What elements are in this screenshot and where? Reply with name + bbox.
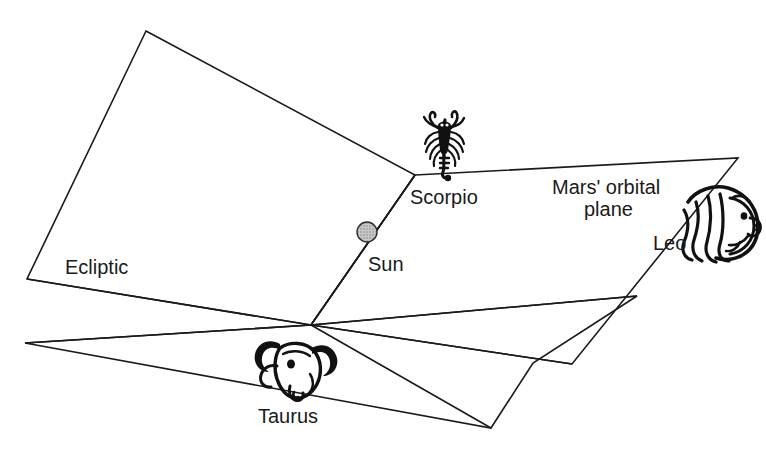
mars-orbital-plane-label-line2: plane: [584, 198, 633, 220]
mars-plane-bottom-ray: [311, 325, 572, 364]
lower-plane-upper-right-ray: [311, 296, 637, 325]
scorpio-to-convergence-ray: [311, 175, 415, 325]
ecliptic-label: Ecliptic: [65, 256, 128, 278]
mars-orbital-plane-label-line1: Mars' orbital: [552, 176, 660, 198]
ecliptic-plane-shape: [27, 31, 415, 325]
sun-label: Sun: [368, 253, 404, 275]
leo-label: Leo: [653, 232, 686, 254]
lower-plane-left-ray: [25, 325, 311, 343]
sun-marker-icon: [357, 222, 377, 242]
ecliptic-left-ray: [27, 279, 311, 325]
scorpio-label: Scorpio: [410, 186, 478, 208]
lion-head-icon: [683, 187, 761, 262]
lower-plane-bottom-ray: [311, 325, 491, 428]
orbital-plane-diagram: Ecliptic Mars' orbital plane Sun Scorpio…: [0, 0, 766, 453]
diagram-canvas: Ecliptic Mars' orbital plane Sun Scorpio…: [0, 0, 766, 453]
scorpion-icon: [424, 111, 464, 181]
taurus-label: Taurus: [258, 405, 318, 427]
